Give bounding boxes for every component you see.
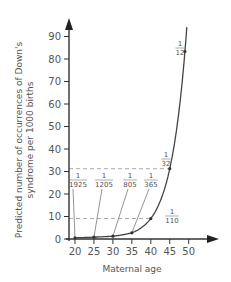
- annotation-labels: 1192511205180513651110132112: [69, 40, 185, 225]
- y-tick-label: 20: [48, 189, 61, 200]
- fraction-label: 11925: [69, 172, 87, 189]
- fraction-denominator: 1925: [69, 181, 87, 189]
- y-tick-label: 10: [48, 211, 61, 222]
- fraction-denominator: 12: [176, 49, 185, 57]
- fraction-label: 11205: [95, 172, 113, 189]
- fraction-denominator: 805: [123, 181, 136, 189]
- leader-line: [113, 189, 128, 236]
- reference-lines: [69, 169, 170, 219]
- fraction-denominator: 32: [162, 160, 171, 168]
- leader-line: [94, 189, 102, 237]
- y-tick-label: 40: [48, 144, 61, 155]
- data-curve: [75, 27, 187, 238]
- leader-line: [132, 189, 149, 233]
- y-tick-label: 70: [48, 76, 61, 87]
- leader-line: [73, 189, 75, 238]
- fraction-numerator: 1: [102, 172, 106, 180]
- y-axis-label-line2: syndrome per 1000 births: [25, 81, 35, 198]
- y-tick-label: 50: [48, 121, 61, 132]
- y-tick-label: 60: [48, 99, 61, 110]
- y-tick-label: 90: [48, 31, 61, 42]
- x-tick-label: 40: [144, 246, 157, 257]
- fraction-label: 1110: [165, 208, 179, 225]
- fraction-label: 112: [175, 40, 184, 57]
- fraction-label: 1365: [144, 172, 158, 189]
- y-tick-label: 0: [55, 234, 61, 245]
- y-tick-label: 80: [48, 54, 61, 65]
- x-tick-label: 50: [182, 246, 195, 257]
- x-tick-label: 35: [125, 246, 138, 257]
- x-axis-arrow-icon: [207, 235, 219, 243]
- data-point: [92, 236, 95, 239]
- fraction-label: 1805: [123, 172, 137, 189]
- x-axis-ticks: 20253035404550: [69, 239, 195, 257]
- fraction-denominator: 110: [165, 217, 178, 225]
- x-tick-label: 20: [69, 246, 82, 257]
- y-tick-label: 30: [48, 166, 61, 177]
- fraction-numerator: 1: [164, 151, 168, 159]
- fraction-numerator: 1: [170, 208, 174, 216]
- fraction-numerator: 1: [128, 172, 132, 180]
- fraction-label: 132: [161, 151, 170, 168]
- x-tick-label: 45: [163, 246, 176, 257]
- y-axis-arrow-icon: [65, 18, 73, 30]
- fraction-numerator: 1: [149, 172, 153, 180]
- fraction-denominator: 1205: [95, 181, 113, 189]
- data-point: [111, 235, 114, 238]
- data-point: [130, 231, 133, 234]
- chart: 0102030405060708090 20253035404550 11925…: [0, 0, 231, 282]
- x-tick-label: 25: [88, 246, 101, 257]
- data-point: [149, 217, 152, 220]
- x-axis-label: Maternal age: [102, 264, 162, 274]
- x-tick-label: 30: [107, 246, 120, 257]
- fraction-numerator: 1: [76, 172, 80, 180]
- fraction-numerator: 1: [178, 40, 182, 48]
- fraction-denominator: 365: [144, 181, 157, 189]
- y-axis-label-line1: Predicted number of occurrences of Down'…: [14, 42, 24, 239]
- y-axis-ticks: 0102030405060708090: [48, 31, 69, 245]
